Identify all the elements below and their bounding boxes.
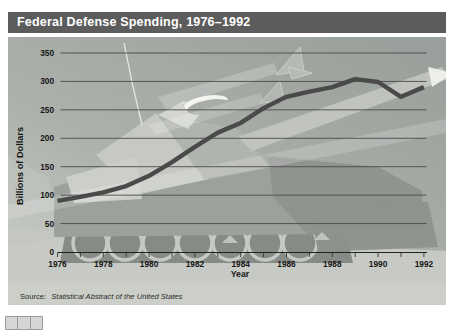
svg-text:1976: 1976 [48,259,67,269]
svg-text:300: 300 [40,76,54,86]
svg-text:1984: 1984 [231,259,250,269]
x-axis-title: Year [231,269,250,279]
source-prefix: Source: [20,292,46,301]
svg-text:50: 50 [45,219,55,229]
svg-text:150: 150 [40,162,54,172]
svg-text:250: 250 [40,105,54,115]
chart-title-bar: Federal Defense Spending, 1976–1992 [8,12,446,33]
source-credit: Source: Statistical Abstract of the Unit… [20,292,182,301]
svg-text:1990: 1990 [369,259,388,269]
svg-text:200: 200 [40,133,54,143]
svg-text:1980: 1980 [140,259,159,269]
defense-spending-line-chart: 050100150200250300350 197619781980198219… [8,37,446,305]
svg-text:0: 0 [49,247,54,257]
source-name: Statistical Abstract of the United State… [51,292,182,301]
x-axis-tick-labels: 197619781980198219841986198819901992 [48,259,433,269]
chart-panel: 050100150200250300350 197619781980198219… [8,37,446,305]
svg-text:1992: 1992 [415,259,434,269]
svg-text:1986: 1986 [277,259,296,269]
svg-text:350: 350 [40,48,54,58]
chart-title: Federal Defense Spending, 1976–1992 [17,15,251,29]
y-axis-title: Billions of Dollars [15,127,25,205]
svg-text:1978: 1978 [94,259,113,269]
svg-text:1982: 1982 [186,259,205,269]
partial-table-icon [5,316,43,330]
svg-text:1988: 1988 [323,259,342,269]
svg-text:100: 100 [40,190,54,200]
